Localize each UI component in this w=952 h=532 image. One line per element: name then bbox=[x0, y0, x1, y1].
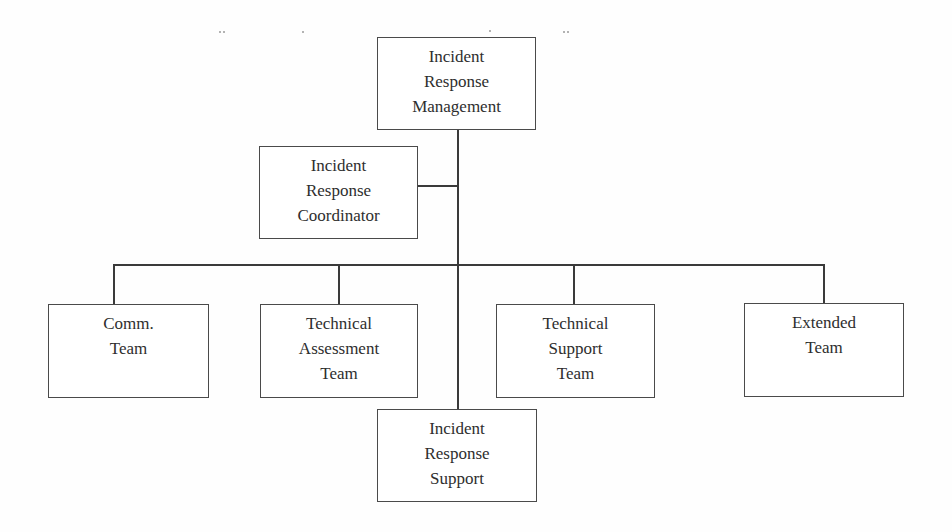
node-technical-support-team: Technical Support Team bbox=[496, 304, 655, 398]
scan-speck bbox=[223, 31, 225, 33]
assessment-team-drop bbox=[338, 264, 340, 304]
node-technical-assessment-team: Technical Assessment Team bbox=[260, 304, 418, 398]
node-incident-response-coordinator: Incident Response Coordinator bbox=[259, 146, 418, 239]
node-label: Technical bbox=[306, 311, 372, 336]
node-label: Response bbox=[424, 69, 489, 94]
node-label: Comm. bbox=[103, 311, 154, 336]
node-label: Technical bbox=[543, 311, 609, 336]
coordinator-connector bbox=[417, 185, 458, 187]
scan-speck bbox=[567, 31, 569, 33]
teams-bus-connector bbox=[114, 264, 824, 266]
node-label: Response bbox=[424, 441, 489, 466]
node-extended-team: Extended Team bbox=[744, 303, 904, 397]
node-label: Extended bbox=[792, 310, 856, 335]
node-label: Coordinator bbox=[297, 203, 379, 228]
node-comm-team: Comm. Team bbox=[48, 304, 209, 398]
node-label: Incident bbox=[429, 416, 485, 441]
scan-speck bbox=[219, 31, 221, 33]
node-label: Response bbox=[306, 178, 371, 203]
node-label: Assessment bbox=[299, 336, 379, 361]
scan-speck bbox=[489, 30, 491, 32]
node-label: Team bbox=[320, 361, 358, 386]
scan-speck bbox=[302, 31, 304, 33]
org-chart-canvas: Incident Response Management Incident Re… bbox=[0, 0, 952, 532]
trunk-connector bbox=[457, 129, 459, 410]
comm-team-drop bbox=[113, 264, 115, 304]
node-label: Team bbox=[557, 361, 595, 386]
node-label: Team bbox=[805, 335, 843, 360]
node-incident-response-management: Incident Response Management bbox=[377, 37, 536, 130]
node-label: Support bbox=[430, 466, 484, 491]
node-label: Support bbox=[549, 336, 603, 361]
node-label: Team bbox=[110, 336, 148, 361]
node-incident-response-support: Incident Response Support bbox=[377, 409, 537, 502]
scan-speck bbox=[563, 31, 565, 33]
node-label: Incident bbox=[311, 153, 367, 178]
node-label: Management bbox=[412, 94, 501, 119]
support-team-drop bbox=[573, 264, 575, 304]
node-label: Incident bbox=[429, 44, 485, 69]
extended-team-drop bbox=[823, 264, 825, 304]
